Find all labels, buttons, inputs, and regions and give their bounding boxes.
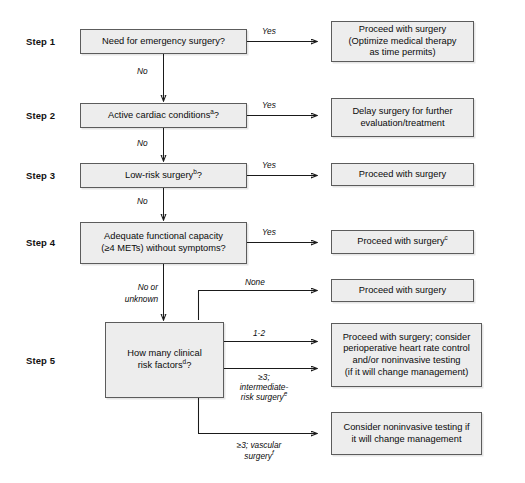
outcome-box-delay-surgery[interactable]: Delay surgery for further evaluation/tre… — [331, 98, 474, 137]
outcome-7-line2: it will change management — [351, 434, 461, 444]
decision-text-5-tail: ? — [186, 360, 191, 370]
footnote-marker-e: e — [284, 390, 288, 397]
edge-label-yes-4: Yes — [262, 227, 276, 237]
footnote-marker-f: f — [272, 449, 274, 456]
decision-text-2: Active cardiac conditions — [108, 110, 210, 120]
edge-label-yes-3: Yes — [262, 160, 276, 170]
outcome-5-line1: Proceed with surgery — [336, 285, 469, 297]
edge-label-no-3: No — [137, 196, 148, 206]
decision-text-4-line2: (≥4 METs) without symptoms? — [101, 243, 225, 253]
decision-text-3-tail: ? — [197, 170, 202, 180]
outcome-box-proceed-consider-hr-control[interactable]: Proceed with surgery; consider periopera… — [331, 323, 482, 387]
decision-text-3: Low-risk surgery — [125, 170, 193, 180]
edge-label-no-2: No — [137, 138, 148, 148]
edge-label-1-2: 1-2 — [253, 328, 265, 338]
footnote-marker-c: c — [445, 234, 448, 241]
decision-text-5-line2: risk factors — [138, 360, 183, 370]
decision-box-clinical-risk-factors[interactable]: How many clinical risk factorsd? — [105, 322, 224, 398]
outcome-6-line4: (if it will change management) — [345, 367, 469, 377]
outcome-7-line1: Consider noninvasive testing if — [343, 422, 469, 432]
step-label-1: Step 1 — [26, 36, 55, 47]
edge-label-ge3-vascular-line2: surgeryf — [212, 451, 306, 461]
edge-label-ge3-intermediate-line1: ≥3; — [228, 372, 300, 382]
flowchart-canvas: Step 1 Step 2 Step 3 Step 4 Step 5 Need … — [0, 0, 525, 483]
decision-box-low-risk-surgery[interactable]: Low-risk surgeryb? — [80, 163, 247, 188]
edge-label-no-1: No — [137, 66, 148, 76]
decision-box-active-cardiac-conditions[interactable]: Active cardiac conditionsa? — [80, 103, 247, 128]
edge-label-none: None — [245, 277, 265, 287]
outcome-6-line1: Proceed with surgery; consider — [343, 332, 471, 342]
outcome-2-line2: evaluation/treatment — [360, 118, 444, 128]
outcome-4-line1: Proceed with surgery — [357, 236, 444, 246]
decision-text-4-line1: Adequate functional capacity — [104, 231, 223, 241]
outcome-box-consider-noninvasive-testing[interactable]: Consider noninvasive testing if it will … — [331, 412, 482, 455]
outcome-1-line3: as time permits) — [369, 47, 435, 57]
outcome-1-line1: Proceed with surgery — [359, 24, 446, 34]
outcome-box-proceed-optimize[interactable]: Proceed with surgery (Optimize medical t… — [331, 21, 474, 62]
decision-text-5-line1: How many clinical — [127, 348, 201, 358]
outcome-1-line2: (Optimize medical therapy — [349, 36, 457, 46]
edge-label-ge3-intermediate-line2: intermediate- — [222, 382, 306, 392]
edge-label-yes-1: Yes — [262, 26, 276, 36]
outcome-box-proceed-step4[interactable]: Proceed with surgeryc — [331, 230, 474, 254]
edge-label-no-or-unknown-line1: No or — [108, 282, 158, 292]
step-label-4: Step 4 — [26, 237, 55, 248]
edge-none — [199, 291, 318, 321]
outcome-6-line3: and/or noninvasive testing — [352, 355, 460, 365]
outcome-6-line2: perioperative heart rate control — [343, 343, 470, 353]
edge-label-ge3-vascular-line1: ≥3; vascular — [212, 440, 306, 450]
step-label-2: Step 2 — [26, 110, 55, 121]
decision-text-1: Need for emergency surgery? — [85, 36, 242, 48]
decision-box-emergency-surgery[interactable]: Need for emergency surgery? — [80, 29, 247, 54]
edge-label-yes-2: Yes — [262, 100, 276, 110]
edge-ge3-vascular — [199, 398, 318, 434]
step-label-5: Step 5 — [26, 355, 55, 366]
edge-label-ge3-intermediate-line3: risk surgerye — [222, 392, 306, 402]
outcome-box-proceed-none[interactable]: Proceed with surgery — [331, 279, 474, 302]
edge-label-no-or-unknown-line2: unknown — [102, 294, 158, 304]
step-label-3: Step 3 — [26, 170, 55, 181]
decision-box-functional-capacity[interactable]: Adequate functional capacity (≥4 METs) w… — [80, 222, 247, 264]
outcome-2-line1: Delay surgery for further — [352, 106, 452, 116]
outcome-box-proceed-step3[interactable]: Proceed with surgery — [331, 163, 474, 186]
decision-text-2-tail: ? — [214, 110, 219, 120]
outcome-3-line1: Proceed with surgery — [336, 169, 469, 181]
